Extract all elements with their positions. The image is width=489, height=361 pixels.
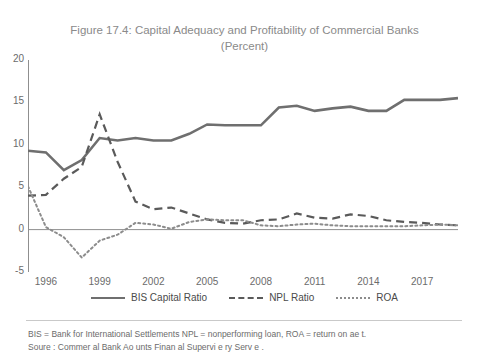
legend-item-0: BIS Capital Ratio <box>91 292 207 303</box>
chart-title-line2: (Percent) <box>0 38 489 54</box>
x-tick-label: 2011 <box>295 276 335 287</box>
series-line-npl-ratio <box>28 114 458 225</box>
x-tick-label: 2014 <box>348 276 388 287</box>
footnote-line-2: Soure : Commer al Bank Ao unts Finan al … <box>28 341 468 354</box>
legend-swatch-dotted <box>336 297 370 299</box>
y-tick-label: -5 <box>2 265 24 276</box>
y-tick-label: 15 <box>2 95 24 106</box>
chart-title-line1: Figure 17.4: Capital Adequacy and Profit… <box>0 22 489 38</box>
legend-swatch-solid <box>91 297 125 299</box>
legend-label-1: NPL Ratio <box>269 292 314 303</box>
y-tick-label: 10 <box>2 138 24 149</box>
x-tick-label: 2008 <box>241 276 281 287</box>
x-tick-label: 1996 <box>26 276 66 287</box>
legend-swatch-dashed <box>229 297 263 299</box>
legend-label-2: ROA <box>376 292 398 303</box>
plot-area: -505101520 19961999200220052008201120142… <box>28 60 458 272</box>
footnote-divider <box>26 320 462 321</box>
y-tick-label: 20 <box>2 53 24 64</box>
chart-title: Figure 17.4: Capital Adequacy and Profit… <box>0 22 489 54</box>
series-line-roa <box>28 186 458 257</box>
y-tick-label: 0 <box>2 223 24 234</box>
x-tick-label: 2002 <box>133 276 173 287</box>
legend-item-1: NPL Ratio <box>229 292 314 303</box>
legend-item-2: ROA <box>336 292 398 303</box>
x-tick-label: 2017 <box>402 276 442 287</box>
y-tick-label: 5 <box>2 180 24 191</box>
legend-label-0: BIS Capital Ratio <box>131 292 207 303</box>
x-tick-label: 1999 <box>80 276 120 287</box>
figure-footnotes: BIS = Bank for International Settlements… <box>28 328 468 354</box>
figure-container: Figure 17.4: Capital Adequacy and Profit… <box>0 0 489 361</box>
chart-svg <box>28 60 458 272</box>
x-tick-label: 2005 <box>187 276 227 287</box>
chart-legend: BIS Capital Ratio NPL Ratio ROA <box>0 292 489 303</box>
footnote-line-1: BIS = Bank for International Settlements… <box>28 328 468 341</box>
